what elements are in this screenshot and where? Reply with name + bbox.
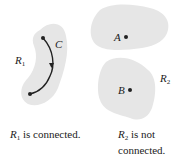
curve-label-c: C xyxy=(55,38,63,50)
caption-r1: R1 is connected. xyxy=(10,128,80,144)
region-r2-bottom xyxy=(98,58,155,120)
region-r1 xyxy=(21,24,67,105)
point-a-label: A xyxy=(113,31,121,43)
region-label-r2: R2 xyxy=(159,72,171,86)
caption-r2: R2 is not connected. xyxy=(118,128,165,156)
point-b-label: B xyxy=(118,84,125,96)
point-a xyxy=(124,35,128,39)
point-b xyxy=(128,88,132,92)
caption-r2-var: R xyxy=(118,128,125,140)
caption-r2-text-line1: is not xyxy=(128,128,155,140)
region-label-r1: R1 xyxy=(14,54,26,68)
curve-end-point xyxy=(28,92,32,96)
region-r2-top xyxy=(91,5,169,51)
caption-r1-text: is connected. xyxy=(20,128,80,140)
curve-start-point xyxy=(41,36,45,40)
caption-r2-text-line2: connected. xyxy=(118,144,165,156)
caption-r1-var: R xyxy=(10,128,17,140)
